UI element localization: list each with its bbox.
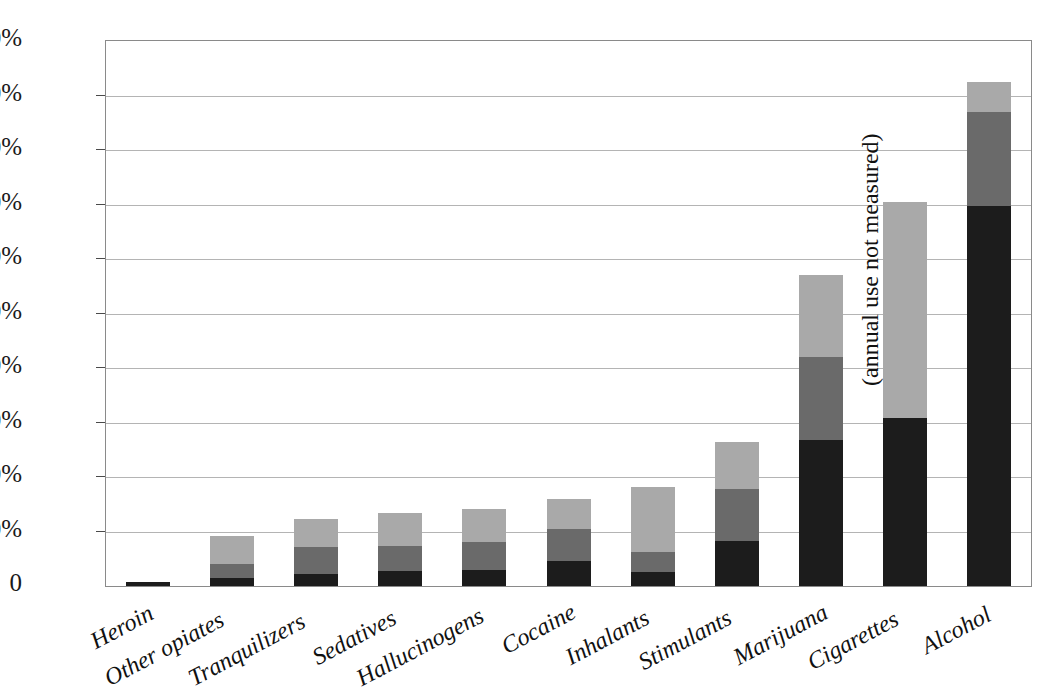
y-tick-mark-50 <box>96 313 105 314</box>
x-tick-label-alcohol: Alcohol <box>917 601 996 660</box>
y-tick-mark-20 <box>96 476 105 477</box>
bar-other-opiates[interactable] <box>210 41 254 586</box>
y-tick-mark-80 <box>96 149 105 150</box>
plot-area: (annual use not measured) <box>105 40 1032 587</box>
bar-segment-30-day <box>799 440 843 586</box>
bar-segment-lifetime <box>631 487 675 552</box>
bar-segment-annual <box>210 564 254 578</box>
y-tick-mark-70 <box>96 204 105 205</box>
bar-segment-annual <box>967 112 1011 206</box>
bar-inhalants[interactable] <box>631 41 675 586</box>
bar-segment-30-day <box>378 571 422 586</box>
y-tick-mark-30 <box>96 422 105 423</box>
bar-segment-lifetime <box>967 82 1011 112</box>
bar-segment-annual <box>715 489 759 541</box>
bar-segment-30-day <box>547 561 591 586</box>
bar-segment-30-day <box>462 570 506 586</box>
bar-segment-lifetime <box>883 202 927 418</box>
y-tick-label-70: 70% <box>0 188 22 216</box>
bar-heroin[interactable] <box>126 41 170 586</box>
y-tick-mark-60 <box>96 258 105 259</box>
bar-segment-30-day <box>967 206 1011 586</box>
y-tick-mark-90 <box>96 95 105 96</box>
y-tick-label-80: 80% <box>0 133 22 161</box>
bar-stimulants[interactable] <box>715 41 759 586</box>
bar-segment-lifetime <box>210 536 254 564</box>
bar-segment-lifetime <box>547 499 591 529</box>
bar-marijuana[interactable] <box>799 41 843 586</box>
chart-container: 010%20%30%40%50%60%70%80%90%100% (annual… <box>0 0 1063 699</box>
bar-segment-30-day <box>210 578 254 586</box>
bar-segment-30-day <box>883 418 927 586</box>
bar-segment-lifetime <box>715 442 759 489</box>
y-tick-label-60: 60% <box>0 242 22 270</box>
annotation-annual-use-not-measured: (annual use not measured) <box>857 133 884 386</box>
y-tick-label-0: 0 <box>0 569 22 597</box>
y-tick-label-10: 10% <box>0 515 22 543</box>
x-tick-label-stimulants: Stimulants <box>634 604 736 675</box>
y-tick-label-90: 90% <box>0 79 22 107</box>
bar-segment-lifetime <box>378 513 422 546</box>
y-tick-label-50: 50% <box>0 297 22 325</box>
bar-segment-30-day <box>294 574 338 586</box>
bar-cigarettes[interactable] <box>883 41 927 586</box>
y-tick-mark-40 <box>96 367 105 368</box>
y-tick-label-20: 20% <box>0 460 22 488</box>
bar-segment-annual <box>799 357 843 440</box>
bar-hallucinogens[interactable] <box>462 41 506 586</box>
y-tick-label-30: 30% <box>0 406 22 434</box>
bar-segment-lifetime <box>462 509 506 543</box>
bar-cocaine[interactable] <box>547 41 591 586</box>
bar-segment-annual <box>631 552 675 572</box>
bar-segment-annual <box>547 529 591 562</box>
bar-tranquilizers[interactable] <box>294 41 338 586</box>
y-tick-label-100: 100% <box>0 24 22 52</box>
bar-segment-annual <box>294 547 338 574</box>
bar-segment-lifetime <box>294 519 338 547</box>
bar-segment-annual <box>462 542 506 570</box>
bar-segment-30-day <box>715 541 759 586</box>
y-tick-label-40: 40% <box>0 351 22 379</box>
bar-sedatives[interactable] <box>378 41 422 586</box>
y-tick-mark-10 <box>96 531 105 532</box>
bar-segment-30-day <box>126 582 170 586</box>
bar-alcohol[interactable] <box>967 41 1011 586</box>
bar-segment-annual <box>378 546 422 571</box>
bar-segment-30-day <box>631 572 675 586</box>
bar-segment-lifetime <box>799 275 843 357</box>
